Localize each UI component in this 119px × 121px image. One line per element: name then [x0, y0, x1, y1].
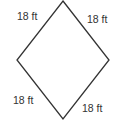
side-label-bottom-left: 18 ft — [13, 95, 33, 106]
side-label-top-right: 18 ft — [87, 14, 107, 25]
side-label-bottom-right: 18 ft — [82, 103, 102, 114]
side-label-top-left: 18 ft — [17, 11, 37, 22]
